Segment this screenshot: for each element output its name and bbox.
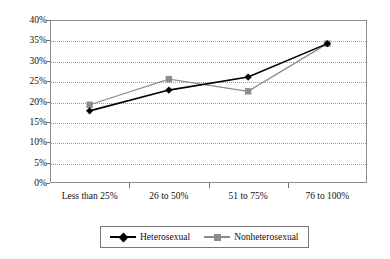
y-axis-tick-label: 35% xyxy=(7,35,47,45)
x-axis-tick-label: 26 to 50% xyxy=(149,191,188,202)
gridline xyxy=(51,62,366,63)
legend-label-heterosexual: Heterosexual xyxy=(140,232,190,243)
y-axis-tick-label: 10% xyxy=(7,137,47,147)
legend-swatch-nonheterosexual xyxy=(204,232,230,242)
y-axis-tick-label: 40% xyxy=(7,15,47,25)
x-axis-tick-mark xyxy=(129,183,130,188)
y-axis-tick-label: 5% xyxy=(7,158,47,168)
square-marker-icon xyxy=(214,234,221,241)
legend-label-nonheterosexual: Nonheterosexual xyxy=(234,232,298,243)
y-axis-tick-mark xyxy=(46,142,50,143)
gridline xyxy=(51,164,366,165)
x-axis-tick-label: Less than 25% xyxy=(62,191,118,202)
gridline xyxy=(51,41,366,42)
legend-swatch-heterosexual xyxy=(110,232,136,242)
plot-area xyxy=(50,20,367,183)
x-axis-tick-label: 76 to 100% xyxy=(305,191,349,202)
line-chart: 0%5%10%15%20%25%30%35%40% Less than 25%2… xyxy=(0,0,390,259)
y-axis-tick-mark xyxy=(46,122,50,123)
x-axis-tick-mark xyxy=(209,183,210,188)
gridline xyxy=(51,103,366,104)
diamond-marker-icon xyxy=(118,232,128,242)
legend-item-nonheterosexual: Nonheterosexual xyxy=(204,232,298,243)
y-axis-tick-mark xyxy=(46,20,50,21)
x-axis-tick-mark xyxy=(288,183,289,188)
y-axis-tick-mark xyxy=(46,183,50,184)
y-axis-tick-label: 0% xyxy=(7,178,47,188)
x-axis-tick-label: 51 to 75% xyxy=(229,191,268,202)
y-axis-tick-mark xyxy=(46,102,50,103)
y-axis-tick-mark xyxy=(46,61,50,62)
y-axis-tick-label: 25% xyxy=(7,76,47,86)
gridline xyxy=(51,82,366,83)
y-axis-tick-label: 20% xyxy=(7,97,47,107)
gridline xyxy=(51,143,366,144)
y-axis-tick-mark xyxy=(46,163,50,164)
y-axis-tick-mark xyxy=(46,40,50,41)
y-axis-tick-mark xyxy=(46,81,50,82)
legend-item-heterosexual: Heterosexual xyxy=(110,232,190,243)
gridline xyxy=(51,123,366,124)
y-axis-tick-label: 15% xyxy=(7,117,47,127)
y-axis-tick-label: 30% xyxy=(7,56,47,66)
legend: Heterosexual Nonheterosexual xyxy=(100,226,309,248)
